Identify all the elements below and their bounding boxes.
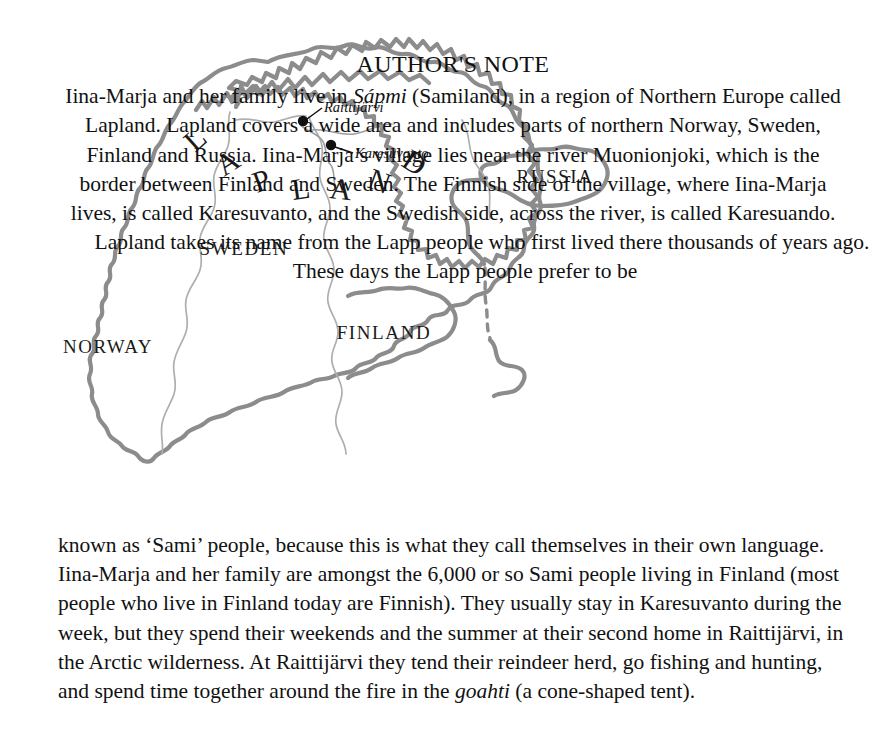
note-goahti-italic: goahti [455,679,510,703]
note-paragraph-3-text-b: (a cone-shaped tent). [510,679,695,703]
note-paragraph-3: known as ‘Sami’ people, because this is … [58,531,858,706]
author-note-page: NORWAY SWEDEN FINLAND RUSSIA L A P L A N… [0,0,884,739]
map-text-wrap-shape [0,0,1,470]
note-paragraph-1-text-a: Iina-Marja and her family live in [65,84,353,108]
page-title: AUTHOR'S NOTE [58,0,872,79]
note-sapmi-italic: Sápmi [353,84,407,108]
author-note-text: AUTHOR'S NOTE Iina-Marja and her family … [0,0,884,739]
note-container: AUTHOR'S NOTE Iina-Marja and her family … [0,0,884,470]
note-paragraph-1: Iina-Marja and her family live in Sápmi … [58,79,872,228]
note-paragraph-2: Lapland takes its name from the Lapp peo… [58,228,872,286]
note-paragraph-3-text-a: known as ‘Sami’ people, because this is … [58,533,843,703]
note-body: AUTHOR'S NOTE Iina-Marja and her family … [0,0,884,287]
